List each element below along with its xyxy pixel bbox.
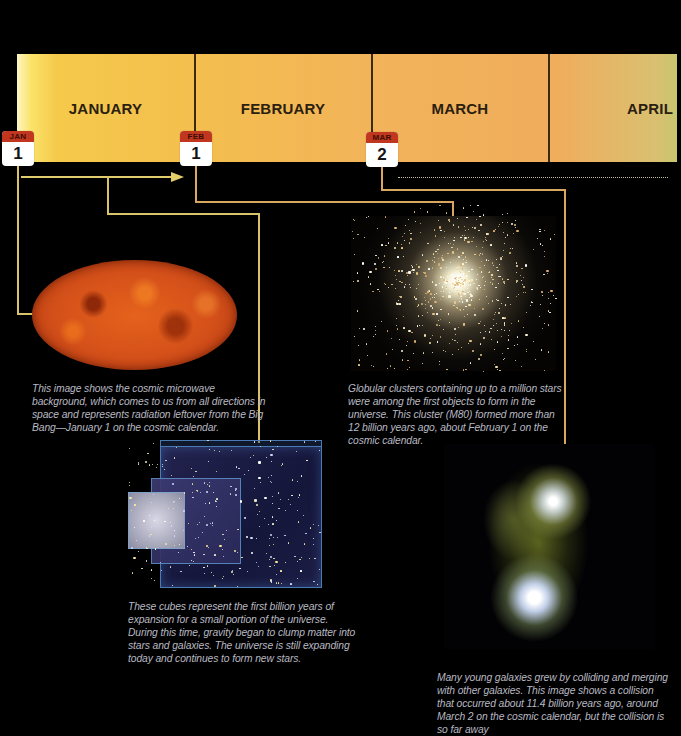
star <box>385 216 386 217</box>
star <box>155 548 156 549</box>
star <box>535 359 536 360</box>
star <box>531 301 532 302</box>
star <box>542 328 543 329</box>
star <box>257 514 258 515</box>
star <box>457 290 458 291</box>
star <box>213 492 214 493</box>
star <box>180 571 181 572</box>
star <box>171 475 172 476</box>
star <box>438 220 439 221</box>
star <box>436 313 437 314</box>
star <box>493 325 494 326</box>
star <box>456 282 457 283</box>
star <box>458 266 460 268</box>
star <box>449 221 450 222</box>
star <box>413 272 414 273</box>
star <box>504 358 505 359</box>
star <box>484 325 485 326</box>
star <box>281 583 282 584</box>
star <box>150 534 151 535</box>
star <box>495 229 496 230</box>
star <box>138 463 139 464</box>
star <box>498 312 500 314</box>
star <box>468 229 469 230</box>
star <box>446 288 447 289</box>
star <box>415 298 417 300</box>
star <box>192 492 193 493</box>
star <box>437 249 438 250</box>
star <box>366 217 367 218</box>
star <box>231 571 233 573</box>
star <box>482 247 483 248</box>
star <box>222 549 223 550</box>
star <box>285 510 286 511</box>
star <box>373 336 374 337</box>
star <box>438 320 439 321</box>
star <box>449 343 450 344</box>
star <box>219 451 220 452</box>
star <box>253 455 254 456</box>
star <box>251 552 253 554</box>
star <box>270 534 272 536</box>
star <box>192 497 193 498</box>
star <box>298 497 299 498</box>
star <box>443 329 444 330</box>
star <box>469 282 470 283</box>
star <box>298 521 299 522</box>
star <box>297 481 298 482</box>
colliding-galaxies-image <box>444 444 654 649</box>
star <box>170 522 171 523</box>
star <box>507 279 508 280</box>
star <box>222 534 223 535</box>
star <box>211 572 212 573</box>
star <box>281 465 282 466</box>
star <box>476 279 477 280</box>
star <box>129 497 131 499</box>
star <box>353 238 354 239</box>
star <box>521 366 522 367</box>
star <box>499 308 500 309</box>
star <box>450 243 451 244</box>
star <box>424 297 425 298</box>
star <box>479 254 480 255</box>
star <box>468 304 470 306</box>
star <box>152 464 153 465</box>
star <box>204 573 205 574</box>
star <box>297 578 298 579</box>
star <box>424 334 426 336</box>
star <box>477 205 478 206</box>
star <box>154 580 155 581</box>
star <box>317 584 318 585</box>
star <box>450 301 451 302</box>
star <box>193 561 194 562</box>
star <box>224 539 225 540</box>
star <box>452 293 453 294</box>
star <box>481 271 482 272</box>
galaxy-caption: Many young galaxies grew by colliding an… <box>437 671 669 736</box>
star <box>410 238 412 240</box>
star <box>206 491 208 493</box>
star <box>497 300 498 301</box>
star <box>230 494 231 495</box>
star <box>523 286 525 288</box>
star <box>305 533 306 534</box>
star <box>394 270 395 271</box>
star <box>377 228 378 229</box>
star <box>478 323 479 324</box>
star <box>518 294 519 295</box>
star <box>550 303 551 304</box>
star <box>432 307 433 308</box>
star <box>443 284 444 285</box>
star <box>195 538 196 539</box>
star <box>427 243 428 244</box>
star <box>398 300 399 301</box>
star <box>402 359 403 360</box>
star <box>405 225 406 226</box>
star <box>539 316 540 317</box>
star <box>203 567 204 568</box>
star <box>162 466 163 467</box>
star <box>313 524 314 525</box>
connector-cubes <box>107 213 259 215</box>
star <box>357 310 358 311</box>
badge-month: MAR <box>366 132 398 143</box>
